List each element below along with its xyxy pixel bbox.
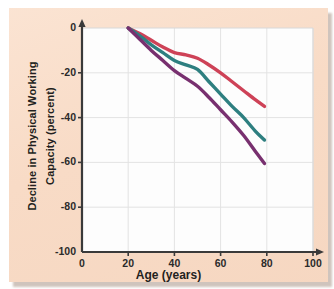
y-tick-label: 0 (42, 21, 76, 33)
y-axis-title: Decline in Physical Working Capacity (pe… (21, 26, 61, 246)
y-axis-arrowhead-icon (78, 19, 85, 27)
plot-area: 0-20-40-60-80-100020406080100 (73, 20, 313, 252)
y-axis-title-line-2: Capacity (percent) (44, 87, 56, 185)
figure-screenshot: Decline in Physical Working Capacity (pe… (0, 0, 334, 289)
y-tick-label: -100 (42, 245, 76, 257)
chart-svg (73, 20, 313, 252)
y-tick-label: -40 (42, 111, 76, 123)
y-tick-label: -60 (42, 155, 76, 167)
y-tick-label: -20 (42, 66, 76, 78)
figure-card: Decline in Physical Working Capacity (pe… (9, 8, 328, 282)
x-axis-title: Age (years) (9, 268, 328, 282)
series-line-lower-curve (128, 28, 264, 164)
y-tick-label: -80 (42, 200, 76, 212)
y-axis-title-line-1: Decline in Physical Working (26, 61, 38, 210)
